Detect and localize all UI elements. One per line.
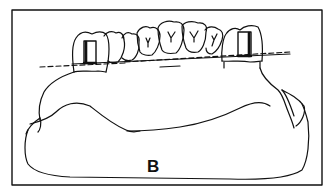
dental-cast-diagram: B: [0, 0, 331, 193]
frame-border: [12, 10, 322, 185]
anterior-teeth: [137, 21, 223, 55]
left-abutment-tooth: [73, 32, 109, 72]
right-abutment-tooth: [222, 26, 263, 68]
cast-base: [25, 68, 309, 179]
reference-line: [72, 54, 290, 64]
reference-line-lower: [160, 66, 180, 67]
diagram-drawing: [0, 0, 331, 193]
panel-label: B: [147, 158, 159, 175]
